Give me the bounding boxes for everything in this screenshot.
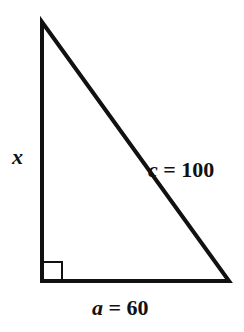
base-value: 60 bbox=[127, 295, 149, 320]
equals-sign: = bbox=[163, 157, 176, 182]
right-angle-marker bbox=[42, 262, 62, 281]
side-label-x: x bbox=[12, 146, 23, 168]
variable-x: x bbox=[12, 144, 23, 169]
variable-c: c bbox=[148, 157, 158, 182]
variable-a: a bbox=[92, 295, 103, 320]
triangle-shape bbox=[42, 22, 229, 281]
base-label: a = 60 bbox=[92, 297, 149, 319]
hypotenuse-label: c = 100 bbox=[148, 159, 214, 181]
hypotenuse-value: 100 bbox=[181, 157, 214, 182]
equals-sign: = bbox=[109, 295, 122, 320]
right-triangle-diagram: x c = 100 a = 60 bbox=[0, 0, 244, 332]
